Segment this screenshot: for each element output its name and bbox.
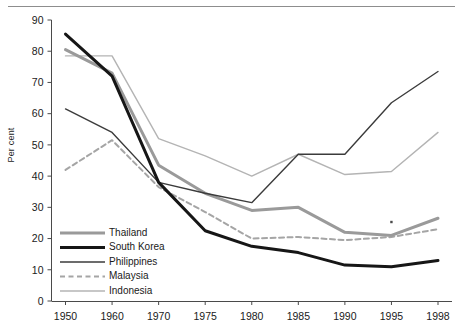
legend-label-south-korea[interactable]: South Korea <box>109 241 165 252</box>
chart-figure: Per cent 0102030405060708090 19501960197… <box>0 0 463 336</box>
stray-dot-marker <box>390 221 392 223</box>
x-tick-label: 1970 <box>147 310 171 322</box>
x-axis-group: 195019601970197519801985199019951998 <box>52 301 453 322</box>
x-tick-group: 195019601970197519801985199019951998 <box>54 301 450 322</box>
annotation-group <box>390 221 392 223</box>
x-tick-label: 1985 <box>287 310 311 322</box>
y-tick-label: 40 <box>32 170 44 182</box>
legend-label-malaysia[interactable]: Malaysia <box>109 270 149 281</box>
x-tick-label: 1990 <box>333 310 357 322</box>
y-tick-label: 30 <box>32 201 44 213</box>
x-tick-label: 1960 <box>100 310 124 322</box>
y-tick-label: 70 <box>32 76 44 88</box>
series-line-indonesia <box>66 56 439 176</box>
legend-label-philippines[interactable]: Philippines <box>109 256 157 267</box>
y-axis-group: 0102030405060708090 <box>32 14 52 307</box>
legend-label-indonesia[interactable]: Indonesia <box>109 285 153 296</box>
x-tick-label: 1998 <box>426 310 450 322</box>
y-tick-label: 80 <box>32 45 44 57</box>
x-tick-label: 1950 <box>54 310 78 322</box>
legend-label-thailand[interactable]: Thailand <box>109 227 147 238</box>
x-tick-label: 1975 <box>194 310 218 322</box>
y-tick-label: 50 <box>32 139 44 151</box>
y-tick-group: 0102030405060708090 <box>32 14 52 307</box>
chart-legend: ThailandSouth KoreaPhilippinesMalaysiaIn… <box>60 227 165 296</box>
y-tick-label: 90 <box>32 14 44 26</box>
y-tick-label: 20 <box>32 232 44 244</box>
x-tick-label: 1995 <box>380 310 404 322</box>
y-tick-label: 10 <box>32 264 44 276</box>
line-chart-plot: 0102030405060708090 19501960197019751980… <box>0 0 463 336</box>
y-tick-label: 60 <box>32 107 44 119</box>
x-tick-label: 1980 <box>240 310 264 322</box>
y-tick-label: 0 <box>38 295 44 307</box>
series-line-malaysia <box>66 140 439 240</box>
